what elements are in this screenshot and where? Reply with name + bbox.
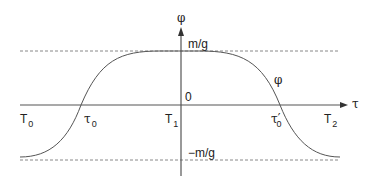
phi-axis-arrow-icon [178, 27, 184, 36]
tau-axis-label: τ [352, 98, 359, 110]
origin-label: 0 [185, 91, 192, 103]
kink-profile-diagram: φ τ 0 m/g −m/g φ T0 τ0 T1 τ′0 T2 [0, 0, 368, 184]
curve-label: φ [274, 74, 282, 86]
lower-level-label: −m/g [188, 147, 215, 159]
tau-axis-arrow-icon [340, 102, 348, 108]
T0-label: T0 [20, 113, 33, 125]
diagram-graphics [0, 0, 368, 184]
tau0-prime-label: τ′0 [271, 113, 281, 125]
phi-axis-label: φ [177, 12, 185, 24]
T2-label: T2 [324, 113, 337, 125]
T1-label: T1 [165, 113, 178, 125]
phi-curve [20, 51, 340, 157]
upper-level-label: m/g [188, 38, 208, 50]
tau0-label: τ0 [84, 113, 97, 125]
